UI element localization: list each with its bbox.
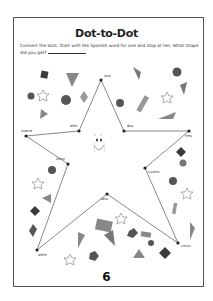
- star-shape: [37, 90, 49, 101]
- dot-cinco[interactable]: [176, 241, 179, 244]
- dot-seis[interactable]: [105, 192, 108, 195]
- triangle-shape: [190, 222, 195, 240]
- dot-siete[interactable]: [35, 248, 38, 251]
- smiley-face: [94, 135, 105, 153]
- circle-shape: [116, 99, 124, 107]
- star-shape: [32, 178, 44, 189]
- label-uno: uno: [104, 74, 111, 78]
- label-siete: siete: [38, 253, 47, 257]
- label-tres: tres: [185, 134, 192, 138]
- rectangle-shape: [95, 218, 113, 232]
- triangle-shape: [66, 73, 79, 87]
- label-cuatro: cuatro: [148, 170, 159, 174]
- circle-shape: [61, 95, 71, 105]
- diamond-shape: [30, 206, 40, 216]
- diamond-shape: [29, 224, 37, 237]
- page-number: 6: [0, 270, 213, 284]
- circle-shape: [169, 177, 177, 185]
- bar-shape: [141, 231, 152, 237]
- dot-diez[interactable]: [77, 129, 80, 132]
- bar-shape: [136, 95, 149, 112]
- label-seis: seis: [101, 197, 108, 201]
- star-shape: [64, 254, 76, 265]
- dot-cuatro[interactable]: [143, 166, 146, 169]
- triangle-shape: [133, 67, 141, 80]
- triangle-shape: [158, 112, 176, 119]
- circle-shape: [28, 93, 35, 100]
- circle-shape: [173, 68, 182, 77]
- triangle-shape: [78, 232, 85, 248]
- dot-dos[interactable]: [122, 129, 125, 132]
- triangle-shape: [40, 109, 48, 119]
- dot-tres[interactable]: [187, 129, 190, 132]
- circle-shape: [148, 240, 154, 246]
- circle-shape: [48, 166, 56, 174]
- triangle-shape: [133, 249, 145, 258]
- dot-to-dot-illustration: [0, 0, 213, 301]
- label-nueve: nueve: [21, 129, 32, 133]
- dot-nueve[interactable]: [24, 134, 27, 137]
- hexagon-shape: [89, 251, 99, 261]
- square-shape: [40, 71, 48, 79]
- bar-shape: [172, 203, 177, 214]
- dot-uno[interactable]: [99, 78, 102, 81]
- diamond-shape: [80, 91, 88, 103]
- triangle-shape: [180, 82, 187, 95]
- star-shape: [161, 92, 173, 103]
- star-shape: [115, 213, 127, 224]
- diamond-shape: [176, 147, 186, 157]
- label-cinco: cinco: [181, 244, 190, 248]
- triangle-shape: [104, 230, 115, 246]
- label-ocho: ocho: [56, 157, 65, 161]
- dot-ocho[interactable]: [66, 162, 69, 165]
- label-diez: diez: [70, 124, 77, 128]
- hexagon-shape: [127, 228, 138, 238]
- diamond-shape: [159, 247, 171, 259]
- star-shape: [181, 188, 193, 199]
- label-dos: dos: [127, 124, 133, 128]
- decorative-shapes: [28, 67, 196, 265]
- circle-shape: [180, 160, 187, 167]
- triangle-shape: [42, 194, 51, 203]
